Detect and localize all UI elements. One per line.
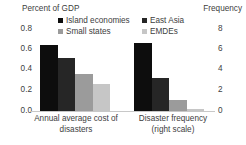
bar-emdes <box>93 84 111 111</box>
bar-group-disaster-frequency <box>134 43 204 111</box>
y-right-tick-2: 2 <box>218 85 232 94</box>
y-right-tick-6: 6 <box>218 44 232 53</box>
chart-figure: Percent of GDP Frequency Island economie… <box>0 0 246 145</box>
y-left-tick-0_6: 0.6 <box>11 44 32 53</box>
legend-swatch-icon <box>58 18 63 23</box>
bar-east-asia <box>58 58 76 111</box>
x-axis-baseline <box>36 111 212 112</box>
legend-item-label: East Asia <box>150 16 184 25</box>
bar-small-states <box>75 74 93 111</box>
bar-island-economies <box>134 43 152 111</box>
y-right-tick-4: 4 <box>218 64 232 73</box>
y-left-tick-0_2: 0.2 <box>11 85 32 94</box>
y-left-tick-0_4: 0.4 <box>11 64 32 73</box>
y-right-tick-0: 0 <box>218 106 232 115</box>
plot-area <box>36 29 208 111</box>
x-axis-stub-left <box>31 111 37 112</box>
legend-item-island-economies: Island economies <box>58 16 142 25</box>
bar-small-states <box>169 100 187 111</box>
legend-swatch-icon <box>142 18 147 23</box>
y-right-tick-8: 8 <box>218 24 232 33</box>
legend-item-label: Island economies <box>66 16 130 25</box>
category-label-disaster-frequency: Disaster frequency (right scale) <box>130 114 216 135</box>
y-left-tick-0_8: 0.8 <box>11 24 32 33</box>
left-axis-title: Percent of GDP <box>22 4 79 14</box>
x-axis-stub-right <box>208 111 215 112</box>
category-label-annual-average-cost: Annual average cost of disasters <box>24 114 128 135</box>
right-axis-title: Frequency <box>203 4 242 14</box>
bar-east-asia <box>152 78 170 111</box>
bar-group-annual-average-cost <box>40 45 110 111</box>
bar-island-economies <box>40 45 58 111</box>
